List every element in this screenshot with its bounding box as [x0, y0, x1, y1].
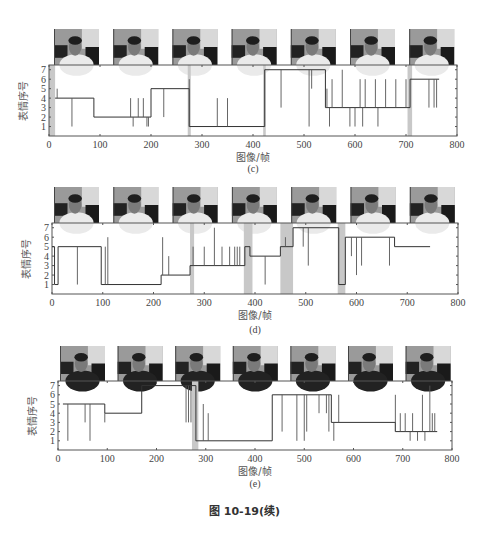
face-thumbnail [60, 346, 105, 392]
x-axis-label: 图像/帧 [238, 465, 271, 477]
y-axis-label: 表情序号 [17, 81, 29, 121]
x-tick-label: 0 [50, 297, 55, 308]
face-thumbnail [410, 187, 455, 234]
x-tick-label: 100 [95, 297, 110, 308]
x-tick-label: 100 [93, 139, 108, 150]
y-tick-label: 3 [44, 260, 49, 271]
face-thumbnail [54, 29, 99, 76]
face-thumbnail [290, 346, 335, 392]
y-tick-label: 1 [44, 279, 49, 290]
face-thumbnail [232, 187, 277, 234]
y-tick-label: 2 [44, 270, 49, 281]
y-tick-label: 4 [41, 93, 46, 104]
y-tick-label: 5 [41, 83, 46, 94]
x-tick-label: 800 [450, 139, 465, 150]
x-tick-label: 400 [248, 453, 263, 464]
x-tick-label: 400 [248, 297, 263, 308]
face-thumbnail [118, 346, 163, 392]
x-tick-label: 500 [297, 453, 312, 464]
y-tick-label: 2 [41, 112, 46, 123]
x-tick-label: 500 [297, 139, 312, 150]
x-tick-label: 200 [149, 453, 164, 464]
face-thumbnail [54, 187, 99, 234]
y-tick-label: 4 [44, 251, 49, 262]
face-thumbnail [113, 29, 158, 76]
y-tick-label: 5 [44, 241, 49, 252]
x-tick-label: 800 [451, 297, 466, 308]
chart-d: 01002003004005006007008001234567表情序号图像/帧… [20, 187, 466, 336]
chart-e: 01002003004005006007008001234567表情序号图像/帧… [26, 346, 460, 490]
face-thumbnail [291, 29, 336, 76]
y-tick-label: 1 [41, 121, 46, 132]
y-tick-label: 3 [41, 102, 46, 113]
x-axis-label: 图像/帧 [238, 309, 271, 321]
x-tick-label: 0 [47, 139, 52, 150]
x-tick-label: 800 [445, 453, 460, 464]
y-tick-label: 7 [44, 222, 49, 233]
x-tick-label: 700 [395, 453, 410, 464]
figure-canvas: 01002003004005006007008001234567表情序号图像/帧… [0, 0, 489, 539]
x-tick-label: 700 [399, 139, 414, 150]
x-tick-label: 600 [346, 453, 361, 464]
face-thumbnail [113, 187, 158, 234]
face-thumbnail [291, 187, 336, 234]
subplot-label: (d) [249, 324, 261, 336]
shaded-region [49, 65, 55, 136]
expression-step-line [55, 70, 439, 127]
x-tick-label: 100 [100, 453, 115, 464]
y-tick-label: 7 [50, 380, 55, 391]
x-tick-label: 300 [197, 297, 212, 308]
face-thumbnail [233, 346, 278, 392]
face-thumbnail [172, 29, 217, 76]
face-thumbnail [406, 346, 451, 392]
face-thumbnail [409, 29, 454, 76]
x-tick-label: 200 [144, 139, 159, 150]
expression-step-line [63, 386, 437, 441]
shaded-region [280, 223, 293, 294]
x-tick-label: 200 [146, 297, 161, 308]
x-tick-label: 300 [195, 139, 210, 150]
face-thumbnail [350, 29, 395, 76]
x-tick-label: 0 [56, 453, 61, 464]
face-thumbnail [173, 187, 218, 234]
shaded-region [192, 381, 198, 450]
x-axis-label: 图像/帧 [236, 151, 269, 163]
x-tick-label: 500 [298, 297, 313, 308]
expression-step-line [52, 228, 430, 285]
x-tick-label: 300 [198, 453, 213, 464]
face-thumbnail [232, 29, 277, 76]
face-thumbnail [351, 187, 396, 234]
x-tick-label: 400 [246, 139, 261, 150]
y-tick-label: 6 [41, 74, 46, 85]
subplot-label: (e) [249, 478, 260, 490]
y-tick-label: 7 [41, 64, 46, 75]
y-tick-label: 6 [44, 232, 49, 243]
x-tick-label: 600 [349, 297, 364, 308]
chart-c: 01002003004005006007008001234567表情序号图像/帧… [17, 29, 465, 175]
face-thumbnail [348, 346, 393, 392]
figure-caption: 图 10-19(续) [0, 502, 489, 518]
y-axis-label: 表情序号 [20, 239, 32, 279]
x-tick-label: 700 [400, 297, 415, 308]
subplot-label: (c) [247, 163, 258, 175]
y-axis-label: 表情序号 [26, 396, 38, 436]
x-tick-label: 600 [348, 139, 363, 150]
